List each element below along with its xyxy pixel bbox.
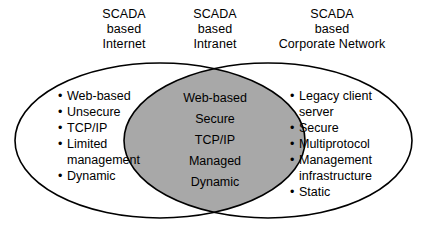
list-item: Web-based — [58, 88, 150, 104]
list-item: Limited management — [58, 136, 150, 168]
header-center-set: SCADA based Intranet — [193, 7, 237, 51]
header-right-line2: based — [279, 22, 386, 37]
list-item: Legacy client server — [290, 88, 402, 120]
list-item: TCP/IP — [163, 130, 267, 151]
header-left-set: SCADA based Internet — [102, 7, 146, 51]
header-right-line3: Corporate Network — [279, 37, 386, 52]
list-item: Dynamic — [58, 168, 150, 184]
header-center-line3: Intranet — [193, 37, 237, 52]
header-right-line1: SCADA — [279, 7, 386, 22]
header-right-set: SCADA based Corporate Network — [279, 7, 386, 51]
list-item: Static — [290, 184, 402, 200]
list-item: Managed — [163, 151, 267, 172]
header-left-line1: SCADA — [102, 7, 146, 22]
list-item: Secure — [290, 120, 402, 136]
venn-diagram: SCADA based Internet SCADA based Intrane… — [0, 0, 428, 237]
left-set-item-list: Web-based Unsecure TCP/IP Limited manage… — [58, 88, 150, 184]
list-item: Unsecure — [58, 104, 150, 120]
list-item: Multiprotocol — [290, 136, 402, 152]
list-item: Secure — [163, 109, 267, 130]
list-item: Dynamic — [163, 172, 267, 193]
intersection-item-list: Web-based Secure TCP/IP Managed Dynamic — [163, 88, 267, 193]
right-set-item-list: Legacy client server Secure Multiprotoco… — [290, 88, 402, 200]
header-left-line3: Internet — [102, 37, 146, 52]
list-item: Web-based — [163, 88, 267, 109]
list-item: TCP/IP — [58, 120, 150, 136]
header-center-line1: SCADA — [193, 7, 237, 22]
list-item: Management infrastructure — [290, 152, 402, 184]
header-left-line2: based — [102, 22, 146, 37]
header-center-line2: based — [193, 22, 237, 37]
